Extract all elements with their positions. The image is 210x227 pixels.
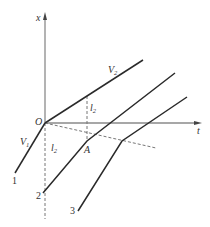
- line-1-label: 1: [12, 175, 17, 186]
- x-axis-arrow-icon: [43, 12, 47, 20]
- t-axis-label: t: [197, 125, 200, 136]
- v1-line-1: [15, 123, 45, 173]
- space-time-diagram: x t O V2 V1 l2 l2 A 1 2 3: [0, 0, 210, 227]
- v1-label: V1: [20, 136, 29, 148]
- line-3-label: 3: [70, 205, 75, 216]
- origin-label: O: [35, 116, 42, 127]
- dashed-wave-line: [45, 123, 156, 148]
- l2-lower-label: l2: [51, 142, 58, 154]
- line-2: [43, 73, 175, 193]
- x-axis-label: x: [35, 12, 41, 23]
- line-2-label: 2: [36, 190, 41, 201]
- v2-label: V2: [108, 64, 118, 76]
- point-a-label: A: [83, 144, 91, 155]
- l2-upper-label: l2: [90, 102, 97, 114]
- line-3: [78, 97, 187, 211]
